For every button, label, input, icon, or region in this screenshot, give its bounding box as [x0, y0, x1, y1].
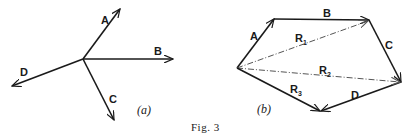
panel-b-label: (b) [257, 102, 271, 116]
vector-b-label: B [154, 45, 162, 57]
vector-c-label: C [385, 39, 393, 51]
vector-d-label: D [20, 66, 28, 78]
vector-d-arrow [321, 82, 401, 111]
vector-c-arrow [369, 20, 401, 82]
vector-a-label: A [101, 14, 109, 26]
figure-caption: Fig. 3 [191, 121, 220, 133]
svg-text:2: 2 [327, 71, 331, 78]
vector-diagram: A B C D (a) A B C D R 1 R 2 R 3 (b) Fig.… [0, 0, 414, 138]
resultant-r3-label: R 3 [290, 83, 302, 97]
vector-b-label: B [323, 7, 331, 19]
resultant-r2-label: R 2 [319, 64, 331, 78]
svg-text:1: 1 [303, 39, 307, 46]
panel-b: A B C D R 1 R 2 R 3 (b) [237, 7, 401, 116]
svg-text:R: R [319, 64, 327, 76]
panel-a-label: (a) [137, 103, 151, 117]
vector-b-arrow [274, 19, 369, 20]
vector-c-arrow [83, 59, 114, 120]
vector-c-label: C [109, 93, 117, 105]
svg-text:R: R [290, 83, 298, 95]
vector-a-label: A [250, 30, 258, 42]
resultant-r1-label: R 1 [295, 32, 307, 46]
vector-d-label: D [351, 89, 359, 101]
svg-text:3: 3 [298, 90, 302, 97]
vector-a-arrow [237, 19, 274, 68]
panel-a: A B C D (a) [12, 9, 173, 120]
svg-text:R: R [295, 32, 303, 44]
